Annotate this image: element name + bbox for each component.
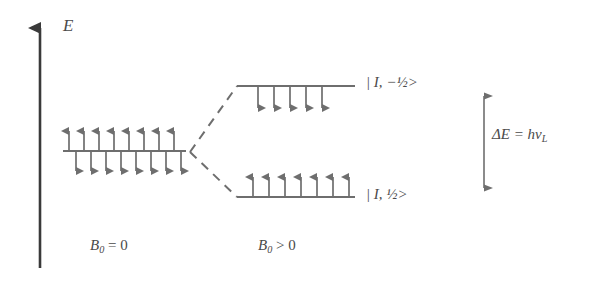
splitting-connectors (190, 86, 237, 197)
splitting-prefix: ΔE = h (492, 126, 535, 142)
field-condition-positive: B0 > 0 (258, 237, 296, 255)
splitting-energy-label: ΔE = hνL (492, 126, 547, 144)
state-label-lower: | I, ½> (366, 186, 408, 203)
field-relation-right: > 0 (272, 237, 295, 253)
spin-arrows-up-degenerate (69, 131, 174, 151)
zeeman-splitting-diagram: E | I, −½> | I, ½> ΔE = hνL B0 = 0 B0 > … (0, 0, 591, 284)
spin-arrows-up-lower (253, 177, 349, 197)
level-lower (237, 177, 355, 197)
splitting-subscript: L (542, 133, 548, 144)
spin-arrows-down-degenerate (76, 151, 181, 171)
spin-arrows-down-upper (258, 86, 322, 108)
field-relation-left: = 0 (104, 237, 127, 253)
field-symbol-left: B (90, 237, 99, 253)
field-symbol-right: B (258, 237, 267, 253)
field-condition-zero: B0 = 0 (90, 237, 128, 255)
splitting-nu: ν (535, 126, 542, 142)
level-degenerate (63, 131, 186, 171)
level-upper (237, 86, 355, 108)
energy-axis-label: E (63, 16, 73, 36)
state-label-upper: | I, −½> (366, 74, 418, 91)
